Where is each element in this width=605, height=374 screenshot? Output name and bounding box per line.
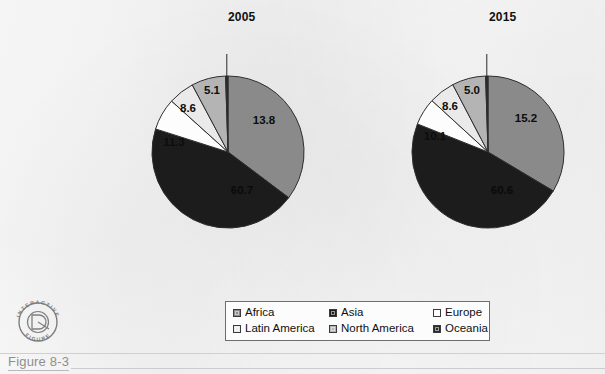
chart-legend: Africa Asia Europe Latin America North A… (225, 301, 490, 341)
pie-chart-2015: 15.2 60.6 10.1 8.6 5.0 0.5 (398, 54, 578, 234)
pie-svg-2015: 15.2 60.6 10.1 8.6 5.0 0.5 (398, 54, 578, 234)
badge-bottom-text: FIGURE (24, 332, 52, 343)
svg-text:FIGURE: FIGURE (24, 332, 52, 343)
legend-swatch-europe (433, 309, 441, 317)
legend-label-asia: Asia (341, 306, 363, 319)
pie-label-asia-2005: 60.7 (231, 184, 253, 196)
legend-swatch-oceania (433, 325, 441, 333)
legend-label-africa: Africa (245, 306, 274, 319)
pie-label-africa-2005: 13.8 (253, 114, 276, 126)
legend-item-north-america[interactable]: North America (329, 322, 433, 335)
figure-caption-row: Figure 8-3 (8, 352, 605, 372)
chart-title-2015: 2015 (489, 10, 517, 24)
legend-item-oceania[interactable]: Oceania (433, 322, 488, 335)
pie-label-north-america-2005: 5.1 (204, 84, 221, 96)
legend-item-asia[interactable]: Asia (329, 306, 433, 319)
pie-svg-2005: 13.8 60.7 11.3 8.6 5.1 0.5 (138, 54, 318, 234)
interactive-figure-stamp-icon: INTERACTIVE FIGURE (12, 298, 64, 346)
legend-swatch-africa (233, 309, 241, 317)
legend-label-north-america: North America (341, 322, 414, 335)
legend-label-oceania: Oceania (445, 322, 488, 335)
legend-item-latin-america[interactable]: Latin America (233, 322, 329, 335)
interactive-figure-badge[interactable]: INTERACTIVE FIGURE (12, 298, 64, 346)
pie-label-north-america-2015: 5.0 (464, 84, 480, 96)
pie-label-africa-2015: 15.2 (515, 112, 537, 124)
legend-swatch-latin-america (233, 325, 241, 333)
legend-item-africa[interactable]: Africa (233, 306, 329, 319)
pie-label-asia-2015: 60.6 (491, 184, 513, 196)
caption-rule (71, 368, 605, 369)
chart-title-2005: 2005 (228, 10, 256, 24)
legend-item-europe[interactable]: Europe (433, 306, 488, 319)
pie-label-latin-america-2005: 8.6 (180, 102, 196, 114)
legend-label-europe: Europe (445, 306, 482, 319)
pie-label-latin-america-2015: 8.6 (442, 100, 458, 112)
legend-swatch-north-america (329, 325, 337, 333)
legend-label-latin-america: Latin America (245, 322, 315, 335)
figure-caption: Figure 8-3 (8, 354, 69, 371)
legend-swatch-asia (329, 309, 337, 317)
pie-chart-2005: 13.8 60.7 11.3 8.6 5.1 0.5 (138, 54, 318, 234)
pie-label-europe-2015: 10.1 (424, 130, 447, 142)
pie-label-europe-2005: 11.3 (163, 136, 185, 148)
